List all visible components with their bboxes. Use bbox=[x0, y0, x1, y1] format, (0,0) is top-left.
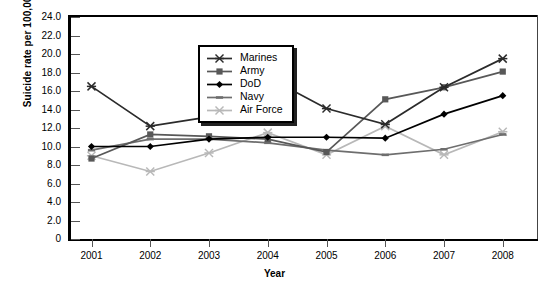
marker-diamond bbox=[499, 92, 506, 99]
x-tick-label: 2006 bbox=[374, 251, 396, 261]
marker-diamond bbox=[382, 135, 389, 142]
chart-legend: MarinesArmyDoDNavyAir Force bbox=[198, 45, 294, 123]
legend-item-label: DoD bbox=[240, 78, 261, 89]
legend-key-swatch bbox=[206, 90, 233, 103]
chart-figure: Suicide rate per 100,000 population 02.0… bbox=[0, 0, 549, 287]
marker-x-cross bbox=[498, 55, 507, 63]
legend-item-army[interactable]: Army bbox=[206, 64, 283, 77]
y-tick-label: 18.0 bbox=[42, 68, 61, 78]
y-tick-label: 12.0 bbox=[42, 123, 61, 133]
legend-key-swatch bbox=[206, 64, 233, 77]
series-marines bbox=[87, 55, 507, 131]
x-tick-mark bbox=[444, 239, 445, 247]
y-tick-label: 2.0 bbox=[47, 216, 61, 226]
x-tick-label: 2002 bbox=[139, 251, 161, 261]
legend-item-label: Air Force bbox=[240, 104, 283, 115]
marker-plus-cross bbox=[215, 107, 224, 115]
marker-diamond bbox=[440, 111, 447, 118]
y-tick-label: 4.0 bbox=[47, 197, 61, 207]
marker-plus-cross bbox=[146, 167, 155, 175]
legend-item-label: Marines bbox=[240, 52, 277, 63]
x-tick-mark bbox=[503, 239, 504, 247]
y-axis-title: Suicide rate per 100,000 population bbox=[22, 0, 33, 137]
legend-item-air-force[interactable]: Air Force bbox=[206, 103, 283, 116]
x-tick-label: 2004 bbox=[257, 251, 279, 261]
x-tick-mark bbox=[385, 239, 386, 247]
y-tick-label: 6.0 bbox=[47, 179, 61, 189]
y-tick-label: 0 bbox=[55, 234, 61, 244]
marker-square bbox=[500, 68, 506, 74]
x-tick-mark bbox=[268, 239, 269, 247]
x-tick-label: 2001 bbox=[80, 251, 102, 261]
y-tick-label: 16.0 bbox=[42, 86, 61, 96]
legend-item-dod[interactable]: DoD bbox=[206, 77, 283, 90]
legend-item-navy[interactable]: Navy bbox=[206, 90, 283, 103]
marker-x-cross bbox=[215, 55, 224, 63]
marker-plus-cross bbox=[204, 149, 213, 157]
y-tick-label: 22.0 bbox=[42, 31, 61, 41]
legend-key-swatch bbox=[206, 51, 233, 64]
x-tick-label: 2007 bbox=[433, 251, 455, 261]
legend-item-marines[interactable]: Marines bbox=[206, 51, 283, 64]
x-tick-mark bbox=[92, 239, 93, 247]
marker-square bbox=[382, 96, 388, 102]
marker-square bbox=[88, 155, 94, 161]
marker-diamond bbox=[216, 81, 223, 88]
axis-bottom-spine bbox=[68, 239, 538, 241]
marker-x-cross bbox=[322, 105, 331, 113]
x-axis-title: Year bbox=[0, 268, 549, 279]
series-lines bbox=[68, 17, 538, 239]
y-tick-label: 8.0 bbox=[47, 160, 61, 170]
y-tick-label: 14.0 bbox=[42, 105, 61, 115]
y-tick-label: 20.0 bbox=[42, 49, 61, 59]
x-tick-mark bbox=[150, 239, 151, 247]
y-tick-label: 10.0 bbox=[42, 142, 61, 152]
series-dod bbox=[88, 92, 506, 150]
legend-item-label: Navy bbox=[240, 91, 264, 102]
marker-square bbox=[323, 149, 329, 155]
marker-x-cross bbox=[146, 122, 155, 130]
marker-square bbox=[147, 131, 153, 137]
legend-key-swatch bbox=[206, 77, 233, 90]
x-tick-mark bbox=[209, 239, 210, 247]
y-tick-mark bbox=[71, 239, 80, 240]
x-tick-mark bbox=[327, 239, 328, 247]
legend-key-swatch bbox=[206, 103, 233, 116]
marker-diamond bbox=[323, 134, 330, 141]
marker-x-cross bbox=[87, 82, 96, 90]
marker-plus-cross bbox=[439, 151, 448, 159]
x-tick-label: 2005 bbox=[315, 251, 337, 261]
plot-area: 02.04.06.08.010.012.014.016.018.020.022.… bbox=[68, 17, 538, 239]
x-tick-label: 2008 bbox=[492, 251, 514, 261]
x-tick-label: 2003 bbox=[198, 251, 220, 261]
marker-square bbox=[216, 68, 222, 74]
marker-diamond bbox=[147, 143, 154, 150]
legend-item-label: Army bbox=[240, 65, 265, 76]
y-tick-label: 24.0 bbox=[42, 12, 61, 22]
